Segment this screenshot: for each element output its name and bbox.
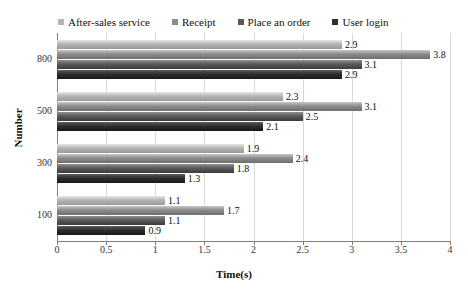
bar-fill — [57, 164, 234, 173]
bar-value-label: 1.3 — [188, 174, 201, 184]
bar-value-label: 1.9 — [247, 144, 260, 154]
x-axis-tick-label: 0 — [55, 245, 60, 255]
bar-fill — [57, 102, 362, 111]
bar-fill — [57, 112, 303, 121]
bar — [57, 70, 342, 79]
bar-value-label: 2.1 — [266, 122, 279, 132]
bar — [57, 206, 224, 215]
bar-value-label: 2.5 — [306, 112, 319, 122]
bar — [57, 92, 283, 101]
legend-item-2[interactable]: Place an order — [238, 17, 311, 28]
legend-swatch-icon — [172, 19, 178, 25]
bar-fill — [57, 196, 165, 205]
bar-fill — [57, 216, 165, 225]
x-axis-tick-label: 2.5 — [296, 245, 309, 255]
bar-value-label: 0.9 — [148, 226, 161, 236]
legend-swatch-icon — [332, 19, 338, 25]
bar — [57, 196, 165, 205]
legend-swatch-icon — [238, 19, 244, 25]
bar-value-label: 1.1 — [168, 216, 181, 226]
bar — [57, 154, 293, 163]
bar-fill — [57, 154, 293, 163]
bar — [57, 226, 145, 235]
legend-item-3[interactable]: User login — [332, 17, 388, 28]
bar-fill — [57, 60, 362, 69]
bar — [57, 164, 234, 173]
x-axis-tick-label: 4 — [448, 245, 453, 255]
gridline — [401, 33, 402, 241]
bar — [57, 112, 303, 121]
y-axis-tick-label: 100 — [20, 210, 52, 220]
bar-value-label: 3.8 — [433, 50, 446, 60]
bar-chart: After-sales serviceReceiptPlace an order… — [0, 0, 468, 308]
chart-legend: After-sales serviceReceiptPlace an order… — [58, 14, 458, 30]
x-axis-tick-label: 1 — [153, 245, 158, 255]
bar-fill — [57, 122, 263, 131]
bar — [57, 102, 362, 111]
x-axis-tick-label: 3 — [349, 245, 354, 255]
x-axis-title: Time(s) — [0, 268, 468, 280]
bar-value-label: 2.4 — [296, 154, 309, 164]
bar-value-label: 2.3 — [286, 92, 299, 102]
bar — [57, 50, 430, 59]
bar-value-label: 3.1 — [365, 60, 378, 70]
gridline — [450, 33, 451, 241]
bar-value-label: 2.9 — [345, 40, 358, 50]
legend-label: Receipt — [182, 17, 216, 28]
bar — [57, 216, 165, 225]
legend-label: User login — [342, 17, 388, 28]
bar-fill — [57, 50, 430, 59]
bar-fill — [57, 174, 185, 183]
bar — [57, 174, 185, 183]
x-axis-tick-label: 0.5 — [100, 245, 113, 255]
bar-fill — [57, 144, 244, 153]
legend-item-0[interactable]: After-sales service — [58, 17, 150, 28]
bar-value-label: 1.7 — [227, 206, 240, 216]
y-axis-title: Number — [12, 88, 24, 168]
bar — [57, 60, 362, 69]
bar-value-label: 1.1 — [168, 196, 181, 206]
y-axis-tick-label: 300 — [20, 158, 52, 168]
legend-item-1[interactable]: Receipt — [172, 17, 216, 28]
bar-fill — [57, 206, 224, 215]
bar — [57, 144, 244, 153]
bar-fill — [57, 226, 145, 235]
bar-fill — [57, 92, 283, 101]
bar-value-label: 3.1 — [365, 102, 378, 112]
legend-label: After-sales service — [68, 17, 150, 28]
y-axis-tick-label: 500 — [20, 106, 52, 116]
bar — [57, 122, 263, 131]
x-axis-tick-label: 1.5 — [198, 245, 211, 255]
bar-value-label: 1.8 — [237, 164, 250, 174]
bar — [57, 40, 342, 49]
x-axis-tick-label: 2 — [251, 245, 256, 255]
y-axis-tick-label: 800 — [20, 54, 52, 64]
bar-value-label: 2.9 — [345, 70, 358, 80]
x-axis-tick-label: 3.5 — [395, 245, 408, 255]
legend-label: Place an order — [248, 17, 311, 28]
bar-fill — [57, 40, 342, 49]
bar-fill — [57, 70, 342, 79]
legend-swatch-icon — [58, 19, 64, 25]
